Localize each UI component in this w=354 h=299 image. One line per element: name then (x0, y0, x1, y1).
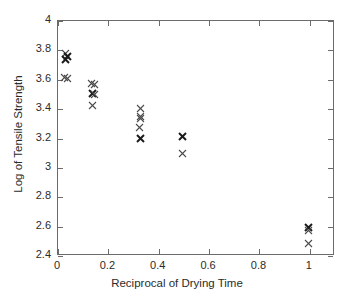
y-axis-tick (58, 227, 63, 228)
y-axis-tick-label: 2.8 (3, 189, 51, 201)
y-axis-tick (58, 197, 63, 198)
y-axis-tick (328, 256, 333, 257)
x-axis-tick (159, 21, 160, 26)
x-axis-tick (209, 21, 210, 26)
y-axis-tick (328, 21, 333, 22)
x-axis-tick (310, 249, 311, 254)
y-axis-tick-label: 3.6 (3, 72, 51, 84)
x-axis-tick (159, 249, 160, 254)
x-axis-tick (209, 249, 210, 254)
x-axis-tick-label: 0.8 (238, 259, 278, 271)
x-axis-tick (108, 249, 109, 254)
y-axis-tick (58, 50, 63, 51)
y-axis-tick (328, 168, 333, 169)
y-axis-tick (58, 139, 63, 140)
scatter-plot-figure: Log of Tensile Strength Reciprocal of Dr… (0, 0, 354, 299)
x-axis-tick-label: 0.2 (87, 259, 127, 271)
y-axis-tick (58, 80, 63, 81)
x-axis-tick (259, 21, 260, 26)
y-axis-tick (328, 50, 333, 51)
y-axis-tick (58, 168, 63, 169)
x-axis-tick-label: 0.4 (138, 259, 178, 271)
y-axis-tick-label: 3.2 (3, 131, 51, 143)
x-axis-tick-label: 0 (37, 259, 77, 271)
x-axis-tick-label: 1 (289, 259, 329, 271)
x-axis-title: Reciprocal of Drying Time (0, 277, 354, 289)
y-axis-tick (328, 197, 333, 198)
y-axis-tick-label: 4 (3, 13, 51, 25)
y-axis-tick-label: 3.4 (3, 101, 51, 113)
y-axis-tick-label: 2.6 (3, 219, 51, 231)
x-axis-tick (310, 21, 311, 26)
x-axis-tick (58, 249, 59, 254)
plot-area (57, 20, 334, 255)
y-axis-tick (328, 139, 333, 140)
y-axis-tick (58, 109, 63, 110)
x-axis-tick (108, 21, 109, 26)
y-axis-tick (328, 80, 333, 81)
y-axis-tick (328, 227, 333, 228)
y-axis-tick (328, 109, 333, 110)
y-axis-tick-label: 3.8 (3, 42, 51, 54)
x-axis-tick-label: 0.6 (188, 259, 228, 271)
x-axis-tick (58, 21, 59, 26)
x-axis-tick (259, 249, 260, 254)
y-axis-tick (58, 256, 63, 257)
y-axis-tick-label: 3 (3, 160, 51, 172)
